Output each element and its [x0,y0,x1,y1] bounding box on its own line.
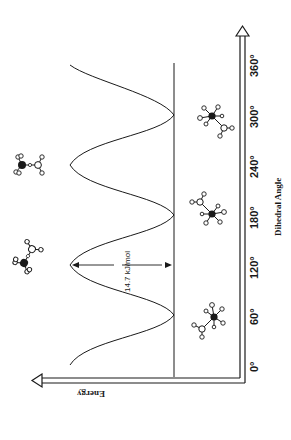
x-axis [236,26,249,383]
barrier-annotation: 14.7 kJ/mol [72,251,172,292]
tick-300: 300° [248,105,260,128]
molecule-staggered-180 [190,192,227,225]
tick-0: 0° [248,361,260,372]
chart-canvas: 14.7 kJ/mol 0° 60° 120° 180° 240° 300° 3… [0,0,291,440]
y-axis [32,374,245,387]
tick-360: 360° [248,54,260,77]
molecule-eclipsed-240 [14,154,44,175]
barrier-label: 14.7 kJ/mol [123,251,132,292]
molecule-staggered-60 [192,303,225,340]
molecule-staggered-300 [198,105,235,138]
tick-240: 240° [248,155,260,178]
tick-120: 120° [248,256,260,279]
molecule-eclipsed-120 [10,238,44,275]
energy-curve [70,65,174,365]
x-tick-labels: 0° 60° 120° 180° 240° 300° 360° [248,54,260,372]
x-axis-title: Dihedral Angle [273,178,283,236]
tick-60: 60° [248,308,260,325]
y-axis-title: Energy [77,389,105,399]
tick-180: 180° [248,206,260,229]
chart-figure: 14.7 kJ/mol 0° 60° 120° 180° 240° 300° 3… [0,0,291,440]
